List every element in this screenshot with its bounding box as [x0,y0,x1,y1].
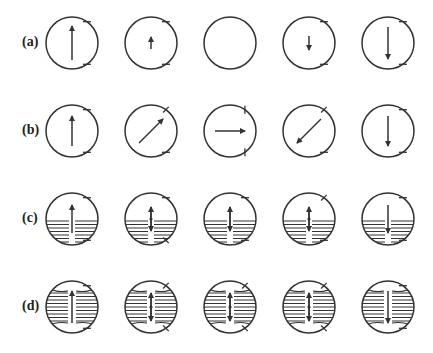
circle-cell [204,281,256,333]
vector-arrow-icon [297,119,321,143]
circle-cell [283,281,335,333]
center-dot-icon [307,305,310,308]
center-dot-icon [307,217,310,220]
circle-cell [46,193,98,245]
circle-cell [362,281,414,333]
circle-cell [204,17,256,69]
circle-cell [362,105,414,157]
circle-cell [283,17,335,69]
center-dot-icon [228,305,231,308]
circle-cell [125,17,177,69]
circle-cell [125,105,177,157]
circle-cell [125,281,177,333]
circle-cell [125,193,177,245]
circle-cell [204,105,256,157]
vector-arrow-icon [139,119,163,143]
circle-cell [362,193,414,245]
center-dot-icon [149,305,152,308]
circle-cell [362,17,414,69]
diagram-figure [0,0,433,353]
circle-cell [46,105,98,157]
circle-cell [46,281,98,333]
circle-cell [283,105,335,157]
circle-cell [283,193,335,245]
circle-cell [204,193,256,245]
circle-cell [46,17,98,69]
center-dot-icon [149,217,152,220]
circle-outline [204,17,256,69]
